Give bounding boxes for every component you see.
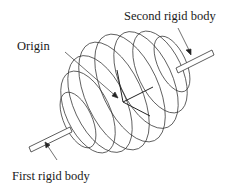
leaders (45, 28, 191, 160)
ring-3 (54, 46, 145, 162)
ellipse-rings (49, 22, 198, 162)
ring-5 (80, 24, 180, 153)
second-body-rod (176, 50, 214, 73)
origin-arrowhead (112, 92, 118, 98)
first-body-leader (47, 145, 57, 160)
second-body-arrowhead (186, 49, 191, 55)
second-body-leader (178, 28, 190, 52)
origin-leader (65, 52, 118, 98)
diagram-canvas: Second rigid body Origin First rigid bod… (0, 0, 237, 190)
second-rigid-body-label: Second rigid body (124, 10, 216, 23)
first-body-rod (29, 127, 72, 152)
ellipsoid-coupling-figure (0, 0, 237, 190)
frame-axis-x (123, 102, 150, 116)
origin-label: Origin (17, 40, 50, 53)
ring-1 (53, 87, 104, 153)
first-rigid-body-label: First rigid body (12, 170, 90, 183)
frame-axis-y (123, 87, 153, 102)
